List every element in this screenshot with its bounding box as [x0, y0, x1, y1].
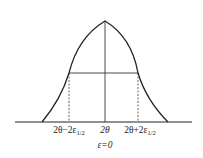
epsilon-zero-label: ε=0 [98, 141, 113, 151]
right-label-text: 2θ+2ε [124, 125, 147, 135]
right-label-sub: 1/2 [148, 129, 156, 136]
right-label: 2θ+2ε1/2 [124, 126, 156, 137]
left-label-text: 2θ−2ε [53, 125, 76, 135]
left-label: 2θ−2ε1/2 [53, 126, 85, 137]
center-label: 2θ [100, 126, 109, 136]
left-label-sub: 1/2 [77, 129, 85, 136]
